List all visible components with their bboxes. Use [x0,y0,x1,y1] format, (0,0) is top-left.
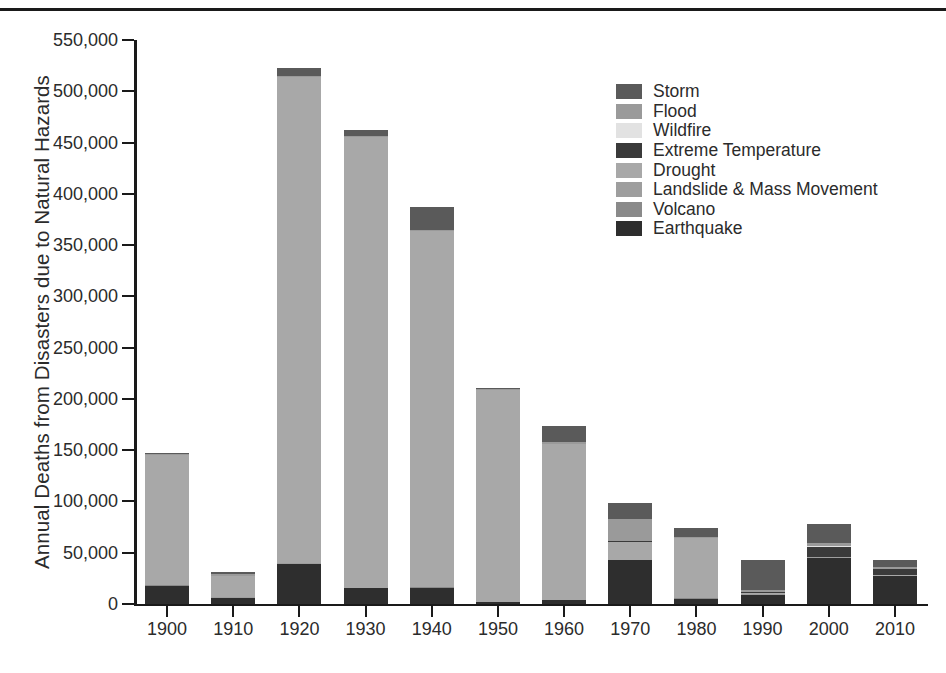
y-tick-label: 100,000 [53,491,118,512]
bar-segment-earthquake[interactable] [807,558,851,604]
bar-segment-storm[interactable] [410,207,454,230]
bar-segment-earthquake[interactable] [277,564,321,604]
bar-2000[interactable] [807,524,851,604]
bar-segment-flood[interactable] [476,389,520,390]
legend-item-wildfire[interactable]: Wildfire [616,121,878,141]
bar-segment-flood[interactable] [542,442,586,444]
bar-1970[interactable] [608,503,652,604]
bar-segment-earthquake[interactable] [608,560,652,604]
bar-segment-drought[interactable] [476,390,520,601]
x-tick-mark [629,606,631,617]
legend-item-volcano[interactable]: Volcano [616,200,878,220]
bar-segment-drought[interactable] [145,455,189,584]
legend-swatch-icon [616,143,642,158]
y-tick-label: 50,000 [63,542,118,563]
bar-segment-flood[interactable] [410,230,454,232]
legend-item-flood[interactable]: Flood [616,102,878,122]
bar-segment-extreme-temperature[interactable] [807,547,851,557]
bar-segment-earthquake[interactable] [344,588,388,604]
y-tick-mark [122,552,134,554]
legend-swatch-icon [616,163,642,178]
bar-1920[interactable] [277,68,321,604]
chart-page: Annual Deaths from Disasters due to Natu… [0,0,946,673]
x-tick-label: 1970 [610,619,650,640]
legend-swatch-icon [616,202,642,217]
bar-1940[interactable] [410,207,454,604]
bar-segment-flood[interactable] [277,76,321,78]
bar-1910[interactable] [211,572,255,604]
bar-segment-storm[interactable] [211,572,255,574]
y-tick-label: 300,000 [53,286,118,307]
x-tick-label: 2010 [875,619,915,640]
bar-2010[interactable] [873,560,917,604]
bar-1930[interactable] [344,130,388,604]
x-tick-mark [166,606,168,617]
legend-swatch-icon [616,104,642,119]
y-tick-mark [122,142,134,144]
bar-segment-storm[interactable] [674,528,718,537]
bar-segment-drought[interactable] [277,77,321,563]
bar-segment-flood[interactable] [741,590,785,592]
y-tick-label: 400,000 [53,183,118,204]
bar-segment-storm[interactable] [145,453,189,454]
bar-1950[interactable] [476,388,520,604]
y-tick-label: 350,000 [53,235,118,256]
bar-segment-earthquake[interactable] [674,599,718,604]
bar-segment-flood[interactable] [211,574,255,576]
bar-segment-flood[interactable] [145,454,189,455]
bar-segment-drought[interactable] [410,231,454,587]
bar-segment-drought[interactable] [608,542,652,560]
legend-item-storm[interactable]: Storm [616,82,878,102]
legend-item-earthquake[interactable]: Earthquake [616,219,878,239]
legend-label: Earthquake [653,218,743,239]
bar-segment-storm[interactable] [344,130,388,136]
legend-label: Flood [653,101,697,122]
x-tick-mark [431,606,433,617]
y-tick-mark [122,295,134,297]
bar-segment-earthquake[interactable] [211,598,255,604]
bar-1980[interactable] [674,528,718,604]
bar-segment-drought[interactable] [674,538,718,597]
legend-item-drought[interactable]: Drought [616,160,878,180]
bar-segment-storm[interactable] [608,503,652,518]
bar-1960[interactable] [542,426,586,604]
x-tick-label: 1950 [478,619,518,640]
y-tick-label: 500,000 [53,81,118,102]
y-tick-label: 550,000 [53,30,118,51]
bar-segment-earthquake[interactable] [410,588,454,604]
x-tick-label: 1920 [279,619,319,640]
bar-segment-drought[interactable] [211,576,255,598]
bar-segment-flood[interactable] [807,543,851,547]
y-tick-mark [122,449,134,451]
bar-segment-extreme-temperature[interactable] [873,569,917,575]
bar-segment-earthquake[interactable] [542,600,586,604]
x-tick-label: 1910 [213,619,253,640]
legend-item-landslide-mass-movement[interactable]: Landslide & Mass Movement [616,180,878,200]
bar-segment-earthquake[interactable] [873,576,917,604]
y-tick-label: 250,000 [53,337,118,358]
bar-segment-storm[interactable] [542,426,586,442]
bar-segment-storm[interactable] [741,560,785,591]
bar-segment-drought[interactable] [542,444,586,600]
bar-segment-storm[interactable] [807,524,851,542]
bar-segment-drought[interactable] [741,593,785,595]
x-tick-mark [695,606,697,617]
y-tick-mark [122,500,134,502]
bar-1900[interactable] [145,453,189,604]
y-tick-mark [122,39,134,41]
bar-1990[interactable] [741,560,785,604]
bar-segment-drought[interactable] [344,137,388,587]
bar-segment-earthquake[interactable] [741,595,785,604]
legend-label: Landslide & Mass Movement [653,179,878,200]
bar-segment-flood[interactable] [344,136,388,138]
bar-segment-earthquake[interactable] [145,586,189,604]
bar-segment-flood[interactable] [873,567,917,569]
bar-segment-flood[interactable] [608,519,652,542]
bar-segment-earthquake[interactable] [476,602,520,604]
y-tick-label: 0 [108,594,118,615]
legend-swatch-icon [616,182,642,197]
bar-segment-storm[interactable] [277,68,321,76]
bar-segment-storm[interactable] [476,388,520,389]
legend-item-extreme-temperature[interactable]: Extreme Temperature [616,141,878,161]
bar-segment-storm[interactable] [873,560,917,568]
